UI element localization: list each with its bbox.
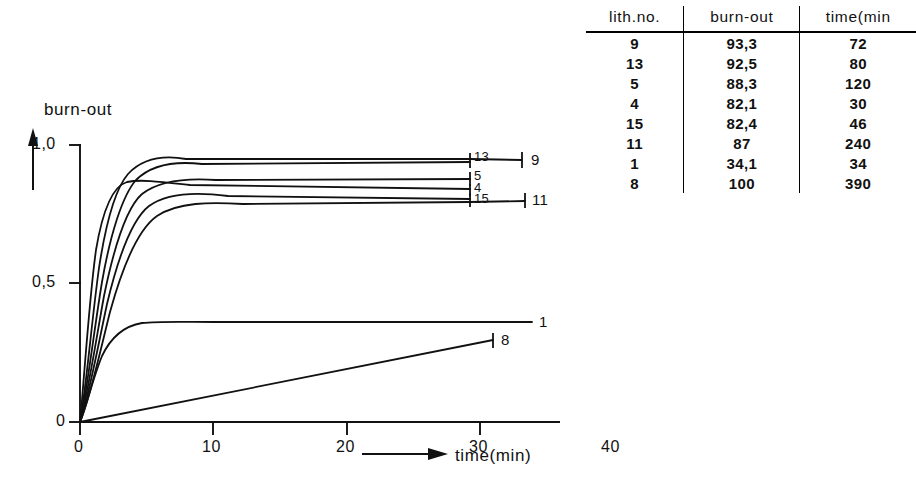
cell-time: 80 — [800, 53, 916, 73]
col-header-burn-out: burn-out — [684, 6, 800, 32]
table-row: 134,134 — [586, 153, 916, 173]
table-header-row: lith.no. burn-out time(min — [586, 6, 916, 32]
chart-plot — [0, 0, 560, 495]
x-tick-label-30: 30 — [469, 438, 488, 456]
cell-time: 390 — [800, 173, 916, 193]
cell-burn-out: 88,3 — [684, 73, 800, 93]
table-row: 1582,446 — [586, 113, 916, 133]
cell-lith-no: 15 — [586, 113, 684, 133]
curve-15 — [80, 194, 470, 422]
y-axis-title: burn-out — [44, 100, 112, 120]
table-body: 993,3721392,580588,3120482,1301582,44611… — [586, 32, 916, 193]
cell-lith-no: 8 — [586, 173, 684, 193]
table-header: lith.no. burn-out time(min — [586, 6, 916, 32]
cell-burn-out: 100 — [684, 173, 800, 193]
table-row: 1392,580 — [586, 53, 916, 73]
curve-8 — [80, 340, 493, 422]
table-row: 482,130 — [586, 93, 916, 113]
cell-burn-out: 92,5 — [684, 53, 800, 73]
data-table: lith.no. burn-out time(min 993,3721392,5… — [586, 6, 916, 193]
cell-lith-no: 5 — [586, 73, 684, 93]
cell-lith-no: 9 — [586, 32, 684, 53]
x-tick-label-40: 40 — [601, 438, 620, 456]
cell-burn-out: 82,1 — [684, 93, 800, 113]
time-axis-arrow — [362, 448, 448, 460]
x-axis-title: time(min) — [455, 446, 531, 466]
cell-time: 72 — [800, 32, 916, 53]
col-header-time: time(min — [800, 6, 916, 32]
table-row: 588,3120 — [586, 73, 916, 93]
cell-burn-out: 87 — [684, 133, 800, 153]
cell-burn-out: 93,3 — [684, 32, 800, 53]
lithology-table: lith.no. burn-out time(min 993,3721392,5… — [586, 6, 916, 193]
col-header-lith-no: lith.no. — [586, 6, 684, 32]
y-tick-label-1: 1,0 — [32, 135, 56, 153]
curve-1 — [80, 322, 532, 422]
curve-11 — [80, 201, 525, 422]
curve-label-11: 11 — [532, 191, 548, 208]
chart-area: burn-out time(min) 1,0 0,5 0 0 10 20 30 … — [0, 0, 560, 495]
table-row: 993,372 — [586, 32, 916, 53]
curve-label-15: 15 — [474, 191, 489, 206]
cell-time: 120 — [800, 73, 916, 93]
table-row: 8100390 — [586, 173, 916, 193]
curve-label-13: 13 — [474, 149, 489, 164]
x-tick-label-20: 20 — [336, 438, 355, 456]
cell-lith-no: 4 — [586, 93, 684, 113]
cell-time: 240 — [800, 133, 916, 153]
cell-burn-out: 82,4 — [684, 113, 800, 133]
y-tick-label-0: 0 — [56, 412, 65, 430]
y-tick-label-05: 0,5 — [32, 273, 56, 291]
curve-label-1: 1 — [539, 313, 548, 330]
cell-lith-no: 1 — [586, 153, 684, 173]
x-tick-label-0: 0 — [74, 438, 83, 456]
x-tick-label-10: 10 — [202, 438, 221, 456]
cell-lith-no: 11 — [586, 133, 684, 153]
cell-lith-no: 13 — [586, 53, 684, 73]
curve-label-9: 9 — [531, 151, 540, 168]
curve-label-8: 8 — [501, 331, 510, 348]
table-row: 1187240 — [586, 133, 916, 153]
curve-5 — [80, 179, 470, 422]
cell-time: 46 — [800, 113, 916, 133]
cell-time: 34 — [800, 153, 916, 173]
cell-time: 30 — [800, 93, 916, 113]
cell-burn-out: 34,1 — [684, 153, 800, 173]
